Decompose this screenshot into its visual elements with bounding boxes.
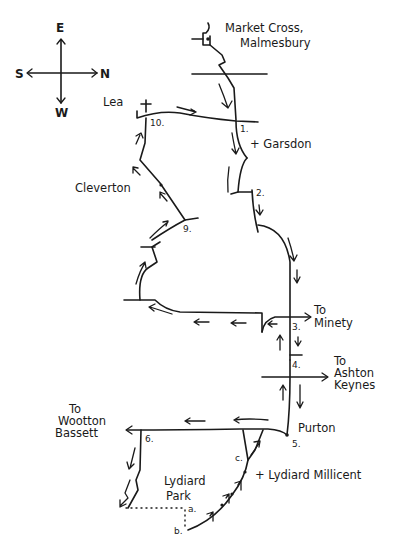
label-to-minety-1: To (313, 303, 326, 317)
road-lea-to-garsdon: 1. + Garsdon (137, 107, 312, 151)
compass-south: S (15, 67, 24, 81)
compass-west: W (55, 106, 68, 120)
label-to-minety-2: Minety (314, 316, 353, 330)
label-purton: Purton (298, 421, 336, 435)
waypoint-2: 2. (256, 188, 265, 198)
compass-rose: E W S N (15, 21, 110, 120)
route-segment-1-to-3: 2. (228, 121, 300, 360)
waypoint-b: b. (174, 526, 183, 536)
waypoint-5: 5. (292, 439, 301, 449)
route-lydiard-park: a. b. Lydiard Park (120, 430, 206, 536)
waypoint-c: c. (235, 453, 243, 463)
label-lydiard-millicent: + Lydiard Millicent (255, 468, 362, 482)
road-3-to-9: 9. (124, 218, 262, 332)
waypoint-4: 4. (292, 360, 301, 370)
waypoint-10: 10. (150, 118, 164, 128)
label-garsdon: + Garsdon (250, 137, 312, 151)
waypoint-9: 9. (183, 224, 192, 234)
label-lydiard-park-1: Lydiard (164, 474, 206, 488)
label-to-wootton-3: Bassett (55, 426, 99, 440)
compass-east: E (56, 21, 64, 35)
label-market-cross: Market Cross, (225, 21, 303, 35)
waypoint-1: 1. (240, 124, 249, 134)
compass-north: N (100, 67, 110, 81)
waypoint-6: 6. (145, 434, 154, 444)
label-malmesbury: Malmesbury (240, 36, 311, 50)
route-map: E W S N 1. + Garsdon 2. To M (0, 0, 395, 545)
waypoint-a: a. (188, 504, 196, 514)
label-lea: Lea (103, 95, 123, 109)
church-cross-icon (141, 100, 151, 112)
label-to-ashton-3: Keynes (334, 378, 375, 392)
waypoint-3: 3. (292, 322, 301, 332)
junction-5-purton: Purton 5. To Wootton Bassett 6. (55, 402, 336, 449)
route-lydiard-millicent: c. + Lydiard Millicent (188, 430, 362, 530)
route-9-to-lea: Cleverton 10. Lea (75, 95, 185, 220)
label-lydiard-park-2: Park (166, 489, 191, 503)
label-cleverton: Cleverton (75, 181, 131, 195)
